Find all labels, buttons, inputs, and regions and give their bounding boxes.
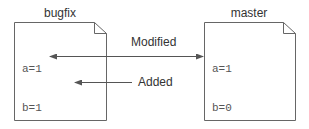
code-line: a=1 — [212, 63, 285, 76]
code-line: b=0 — [212, 102, 285, 115]
bugfix-code-block: a=1 b=1 let c=$a/$b echo $c — [22, 37, 95, 129]
bugfix-title: bugfix — [44, 6, 76, 20]
modified-label: Modified — [131, 35, 176, 49]
added-label: Added — [138, 75, 173, 89]
master-code-block: a=1 b=0 let c=$a/$b — [212, 37, 285, 129]
code-line: b=1 — [22, 102, 95, 115]
branch-diff-diagram: bugfix master Modified Added a=1 b=1 let… — [0, 0, 309, 129]
master-title: master — [231, 6, 268, 20]
code-line: a=1 — [22, 63, 95, 76]
